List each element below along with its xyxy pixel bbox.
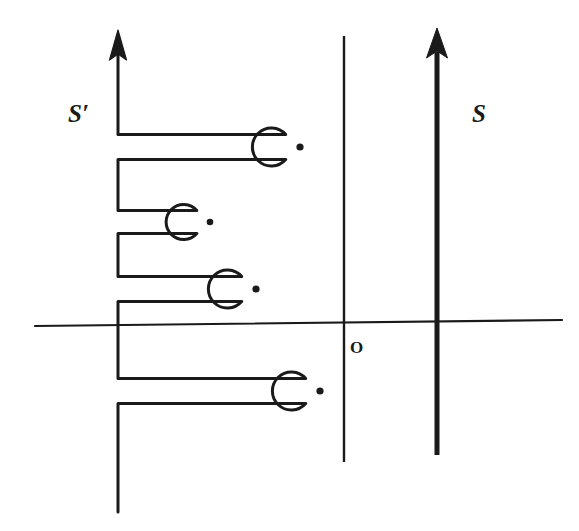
- origin-label: O: [350, 338, 363, 357]
- branch-point-dot-2: [207, 219, 214, 226]
- s-prime-label: S′: [68, 100, 89, 127]
- figure-background: [0, 0, 579, 531]
- branch-point-dot-4: [316, 387, 323, 394]
- branch-point-dot-3: [252, 285, 259, 292]
- contour-diagram-figure: S′ S O: [0, 0, 579, 531]
- complex-plane-contour-svg: S′ S O: [0, 0, 579, 531]
- s-label: S: [472, 100, 486, 127]
- branch-point-dot-1: [296, 143, 303, 150]
